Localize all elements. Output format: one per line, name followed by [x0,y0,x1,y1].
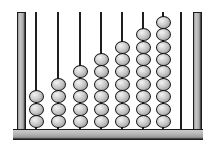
bead[interactable] [136,28,151,41]
bead[interactable] [94,90,109,103]
bead[interactable] [115,78,130,91]
bead[interactable] [115,103,130,116]
abacus [0,0,217,151]
bead[interactable] [156,53,171,66]
left-frame-post [17,12,26,131]
bead[interactable] [73,103,88,116]
bead[interactable] [115,41,130,54]
bead[interactable] [156,103,171,116]
bead[interactable] [136,103,151,116]
bead[interactable] [136,65,151,78]
bead[interactable] [115,115,130,128]
rod-9[interactable] [180,12,182,130]
bead[interactable] [136,90,151,103]
bead[interactable] [51,103,66,116]
base-bar [13,129,203,140]
bead[interactable] [136,53,151,66]
bead[interactable] [51,115,66,128]
bead[interactable] [156,65,171,78]
bead[interactable] [115,53,130,66]
bead[interactable] [156,16,171,29]
bead[interactable] [94,115,109,128]
bead[interactable] [29,115,44,128]
bead[interactable] [115,65,130,78]
bead[interactable] [94,53,109,66]
bead[interactable] [156,90,171,103]
bead[interactable] [73,65,88,78]
bead[interactable] [156,115,171,128]
bead[interactable] [73,78,88,91]
bead[interactable] [73,90,88,103]
bead[interactable] [136,41,151,54]
bead[interactable] [115,90,130,103]
bead[interactable] [94,65,109,78]
bead[interactable] [156,28,171,41]
bead[interactable] [51,90,66,103]
bead[interactable] [136,115,151,128]
bead[interactable] [29,90,44,103]
bead[interactable] [156,78,171,91]
right-frame-post [193,12,202,131]
bead[interactable] [29,103,44,116]
bead[interactable] [156,41,171,54]
bead[interactable] [51,78,66,91]
bead[interactable] [73,115,88,128]
bead[interactable] [136,78,151,91]
bead[interactable] [94,103,109,116]
bead[interactable] [94,78,109,91]
